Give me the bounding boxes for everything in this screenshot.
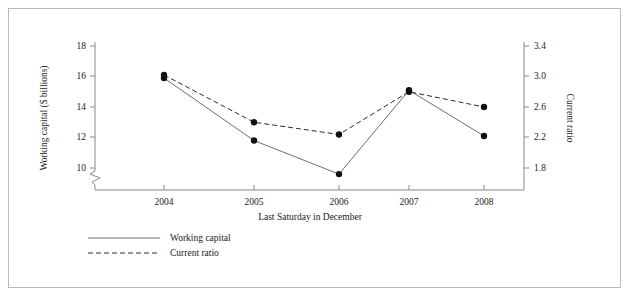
chart-legend: Working capital Current ratio: [88, 233, 231, 258]
x-axis: 2004 2005 2006 2007 2008 Last Saturday i…: [95, 185, 524, 222]
right-tick-label-1-8: 1.8: [534, 163, 546, 173]
series-current-ratio: [161, 72, 487, 138]
right-axis: 3.4 3.0 2.6 2.2 1.8 Current ratio: [524, 41, 575, 190]
left-tick-label-10: 10: [77, 163, 87, 173]
data-point: [336, 171, 342, 177]
current-ratio-line: [164, 75, 484, 134]
right-tick-label-2-2: 2.2: [534, 132, 546, 142]
left-tick-label-12: 12: [77, 132, 87, 142]
right-tick-label-2-6: 2.6: [534, 102, 546, 112]
left-tick-label-18: 18: [77, 41, 87, 51]
right-tick-label-3-0: 3.0: [534, 71, 546, 81]
working-capital-markers: [161, 75, 487, 177]
data-point: [251, 119, 257, 125]
right-axis-title: Current ratio: [565, 94, 575, 143]
x-tick-label-2006: 2006: [330, 197, 349, 207]
x-tick-label-2005: 2005: [245, 197, 264, 207]
x-tick-label-2004: 2004: [155, 197, 174, 207]
series-working-capital: [161, 75, 487, 177]
x-axis-title: Last Saturday in December: [258, 212, 363, 222]
line-chart-plot: 18 16 14 12 10 Working capital ($ billio…: [0, 0, 630, 299]
right-tick-label-3-4: 3.4: [534, 41, 546, 51]
current-ratio-markers: [161, 72, 487, 138]
left-axis: 18 16 14 12 10 Working capital ($ billio…: [39, 41, 100, 190]
data-point: [251, 137, 257, 143]
data-point: [481, 104, 487, 110]
working-capital-line: [164, 78, 484, 174]
x-tick-label-2008: 2008: [475, 197, 494, 207]
left-tick-label-14: 14: [77, 102, 87, 112]
legend-label-working-capital: Working capital: [170, 233, 231, 243]
x-tick-label-2007: 2007: [400, 197, 419, 207]
left-tick-label-16: 16: [77, 71, 87, 81]
chart-figure: 18 16 14 12 10 Working capital ($ billio…: [0, 0, 630, 299]
left-axis-break-icon: [90, 166, 100, 190]
legend-label-current-ratio: Current ratio: [170, 248, 219, 258]
data-point: [406, 89, 412, 95]
data-point: [481, 133, 487, 139]
left-axis-title: Working capital ($ billions): [39, 65, 50, 170]
data-point: [161, 72, 167, 78]
data-point: [336, 131, 342, 137]
